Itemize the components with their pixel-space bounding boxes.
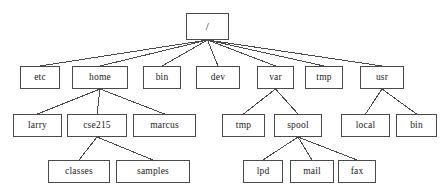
tree-edge-cse215-to-classes <box>79 137 97 160</box>
tree-edge-spool-to-lpd <box>263 137 298 160</box>
tree-edge-var-to-tmp2 <box>244 89 276 114</box>
tree-node-bin2[interactable]: bin <box>396 114 437 137</box>
tree-node-larry[interactable]: larry <box>13 114 62 137</box>
tree-edge-usr-to-bin2 <box>382 89 417 114</box>
tree-node-etc[interactable]: etc <box>20 66 60 89</box>
tree-node-label-fax: fax <box>351 166 364 176</box>
tree-node-usr[interactable]: usr <box>360 66 404 89</box>
tree-node-label-local: local <box>356 120 375 130</box>
tree-node-label-samples: samples <box>137 166 169 176</box>
tree-node-label-dev: dev <box>211 72 225 82</box>
tree-node-label-cse215: cse215 <box>83 120 111 130</box>
tree-node-samples[interactable]: samples <box>116 160 190 183</box>
tree-node-tmp2[interactable]: tmp <box>222 114 265 137</box>
tree-node-tmp1[interactable]: tmp <box>305 66 343 89</box>
tree-node-label-tmp1: tmp <box>316 72 331 82</box>
tree-node-label-etc: etc <box>34 72 46 82</box>
tree-edge-root-to-dev <box>208 40 219 66</box>
tree-edge-root-to-home <box>100 40 208 66</box>
tree-node-label-bin1: bin <box>156 72 169 82</box>
tree-node-var[interactable]: var <box>257 66 294 89</box>
tree-node-label-root: / <box>206 21 209 32</box>
tree-node-label-spool: spool <box>287 120 309 130</box>
tree-node-root[interactable]: / <box>186 13 229 40</box>
tree-node-spool[interactable]: spool <box>274 114 322 137</box>
tree-edge-var-to-spool <box>276 89 299 114</box>
tree-edge-home-to-marcus <box>100 89 165 114</box>
tree-node-dev[interactable]: dev <box>196 66 240 89</box>
tree-edge-spool-to-fax <box>298 137 357 160</box>
tree-node-classes[interactable]: classes <box>48 160 110 183</box>
tree-edge-root-to-var <box>208 40 276 66</box>
tree-node-label-tmp2: tmp <box>236 120 251 130</box>
tree-edge-usr-to-local <box>366 89 383 114</box>
tree-edge-root-to-tmp1 <box>208 40 325 66</box>
tree-edge-spool-to-mail <box>298 137 312 160</box>
tree-node-label-larry: larry <box>28 120 47 130</box>
tree-node-lpd[interactable]: lpd <box>243 160 283 183</box>
tree-node-label-bin2: bin <box>410 120 423 130</box>
tree-node-label-home: home <box>89 72 111 82</box>
tree-node-mail[interactable]: mail <box>290 160 334 183</box>
tree-node-bin1[interactable]: bin <box>143 66 181 89</box>
tree-node-label-marcus: marcus <box>150 120 179 130</box>
tree-node-label-var: var <box>269 72 282 82</box>
tree-node-local[interactable]: local <box>341 114 390 137</box>
tree-node-label-mail: mail <box>303 166 321 176</box>
tree-node-home[interactable]: home <box>72 66 128 89</box>
tree-edge-home-to-cse215 <box>97 89 100 114</box>
tree-edge-root-to-etc <box>40 40 208 66</box>
tree-node-marcus[interactable]: marcus <box>133 114 196 137</box>
tree-node-cse215[interactable]: cse215 <box>67 114 127 137</box>
tree-edge-root-to-usr <box>208 40 383 66</box>
tree-node-fax[interactable]: fax <box>338 160 376 183</box>
directory-tree-diagram: /etchomebindevvartmpusrlarrycse215marcus… <box>0 0 443 193</box>
tree-node-label-usr: usr <box>376 72 388 82</box>
tree-node-label-lpd: lpd <box>257 166 270 176</box>
tree-node-label-classes: classes <box>65 166 93 176</box>
tree-edge-home-to-larry <box>38 89 101 114</box>
tree-edge-cse215-to-samples <box>97 137 153 160</box>
tree-edge-root-to-bin1 <box>162 40 208 66</box>
